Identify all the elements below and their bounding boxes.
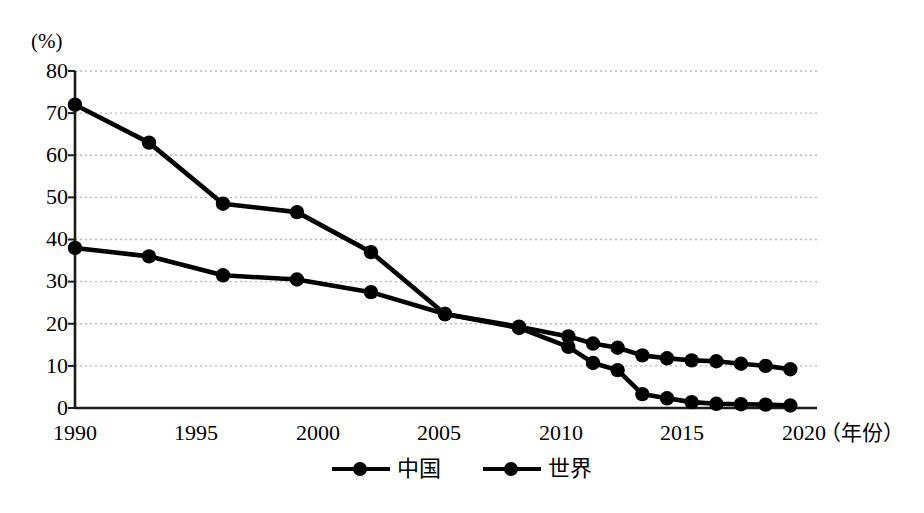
data-point — [216, 196, 230, 210]
data-point — [561, 329, 575, 343]
data-point — [216, 268, 230, 282]
data-point — [758, 397, 772, 411]
data-point — [635, 387, 649, 401]
data-point — [512, 319, 526, 333]
data-point — [783, 398, 797, 412]
gridlines — [75, 71, 817, 366]
legend-item-world[interactable]: 世界 — [483, 458, 592, 480]
data-point — [364, 285, 378, 299]
data-point — [734, 397, 748, 411]
data-point — [684, 395, 698, 409]
legend-item-china[interactable]: 中国 — [332, 458, 441, 480]
data-point — [709, 354, 723, 368]
series-layer — [68, 98, 798, 413]
data-point — [660, 351, 674, 365]
data-point — [610, 341, 624, 355]
data-point — [364, 245, 378, 259]
data-point — [684, 353, 698, 367]
series-line-world — [75, 248, 790, 369]
data-point — [758, 359, 772, 373]
chart-legend: 中国 世界 — [0, 458, 924, 480]
data-point — [438, 307, 452, 321]
data-point — [635, 348, 649, 362]
data-point — [68, 98, 82, 112]
data-point — [290, 205, 304, 219]
legend-label-world: 世界 — [548, 458, 592, 480]
data-point — [290, 272, 304, 286]
legend-line-marker-icon — [483, 461, 541, 477]
legend-label-china: 中国 — [397, 458, 441, 480]
legend-line-marker-icon — [332, 461, 390, 477]
data-point — [68, 241, 82, 255]
data-point — [660, 391, 674, 405]
data-point — [783, 362, 797, 376]
data-point — [142, 249, 156, 263]
plot-area — [0, 0, 924, 513]
data-point — [586, 356, 600, 370]
data-point — [610, 363, 624, 377]
data-point — [586, 336, 600, 350]
data-point — [734, 357, 748, 371]
line-chart: (%) 80 70 60 50 40 30 20 10 0 1990 1995 … — [0, 0, 924, 513]
data-point — [709, 397, 723, 411]
data-point — [142, 135, 156, 149]
